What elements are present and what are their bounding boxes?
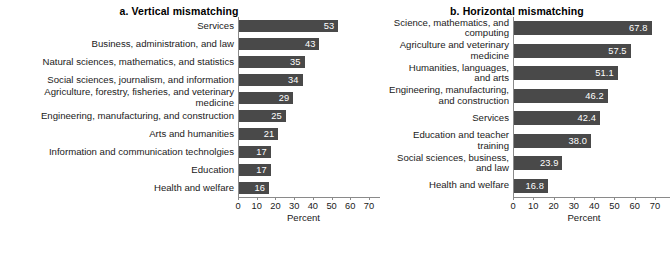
axis-tick-label: 10 — [528, 201, 538, 211]
x-axis-title: Percent — [567, 212, 600, 223]
bar-track: 34 — [238, 71, 380, 89]
bar-track: 17 — [238, 161, 380, 179]
bar-value-label: 29 — [279, 93, 294, 103]
axis-tick — [594, 197, 595, 200]
bar: 17 — [239, 146, 271, 158]
bar-track: 29 — [238, 89, 380, 107]
bar-row: Science, mathematics, and computing67.8 — [380, 17, 670, 40]
panel-b-bar-rows: Science, mathematics, and computing67.8A… — [380, 17, 670, 197]
category-label: Services — [380, 113, 513, 124]
bar-row: Services53 — [0, 17, 380, 35]
panel-a-title: a. Vertical mismatching — [0, 0, 380, 17]
bar: 38.0 — [514, 134, 591, 148]
bar-track: 23.9 — [513, 152, 670, 175]
bar-track: 17 — [238, 143, 380, 161]
bar-value-label: 57.5 — [608, 46, 631, 56]
bar-row: Business, administration, and law43 — [0, 35, 380, 53]
axis-tick-label: 70 — [364, 201, 374, 211]
axis-tick — [275, 197, 276, 200]
bar: 46.2 — [514, 89, 608, 103]
category-label: Health and welfare — [380, 180, 513, 191]
bar-row: Engineering, manufacturing, and construc… — [0, 107, 380, 125]
axis-tick — [574, 197, 575, 200]
bar: 67.8 — [514, 21, 652, 35]
bar-track: 38.0 — [513, 130, 670, 153]
bar-row: Information and communication technolgie… — [0, 143, 380, 161]
bar-value-label: 21 — [264, 129, 279, 139]
category-label: Arts and humanities — [0, 129, 238, 140]
bar: 57.5 — [514, 44, 631, 58]
category-label: Agriculture, forestry, fisheries, and ve… — [0, 87, 238, 108]
bar: 35 — [239, 56, 305, 68]
bar-track: 67.8 — [513, 17, 670, 40]
axis-tick — [513, 197, 514, 200]
axis-tick-label: 30 — [569, 201, 579, 211]
panel-vertical-mismatching: a. Vertical mismatching Services53Busine… — [0, 0, 380, 258]
category-label: Natural sciences, mathematics, and stati… — [0, 57, 238, 68]
axis-tick-label: 20 — [548, 201, 558, 211]
axis-tick — [332, 197, 333, 200]
bar-track: 53 — [238, 17, 380, 35]
bar-row: Education and teacher training38.0 — [380, 130, 670, 153]
category-label: Humanities, languages, and arts — [380, 63, 513, 84]
panel-b-title: b. Horizontal mismatching — [380, 0, 670, 17]
axis-tick — [294, 197, 295, 200]
bar-track: 42.4 — [513, 107, 670, 130]
bar-value-label: 46.2 — [585, 91, 608, 101]
bar-track: 16 — [238, 179, 380, 197]
axis-tick — [614, 197, 615, 200]
panel-a-plot-area: Services53Business, administration, and … — [0, 17, 380, 219]
bar-value-label: 35 — [290, 57, 305, 67]
category-label: Engineering, manufacturing, and construc… — [380, 85, 513, 106]
bar-track: 57.5 — [513, 40, 670, 63]
bar-value-label: 53 — [324, 21, 339, 31]
bar: 21 — [239, 128, 278, 140]
bar: 29 — [239, 92, 293, 104]
bar-value-label: 16 — [254, 183, 269, 193]
bar-row: Agriculture, forestry, fisheries, and ve… — [0, 89, 380, 107]
bar-track: 21 — [238, 125, 380, 143]
axis-tick-label: 50 — [609, 201, 619, 211]
category-label: Science, mathematics, and computing — [380, 18, 513, 39]
category-label: Social sciences, journalism, and informa… — [0, 75, 238, 86]
axis-tick — [313, 197, 314, 200]
bar: 25 — [239, 110, 286, 122]
axis-tick-label: 60 — [630, 201, 640, 211]
bar-value-label: 34 — [288, 75, 303, 85]
panel-a-bar-rows: Services53Business, administration, and … — [0, 17, 380, 197]
bar: 34 — [239, 74, 303, 86]
bar-row: Education17 — [0, 161, 380, 179]
axis-tick — [635, 197, 636, 200]
bar: 53 — [239, 20, 338, 32]
axis-tick-label: 50 — [326, 201, 336, 211]
axis-tick-label: 40 — [308, 201, 318, 211]
category-label: Information and communication technolgie… — [0, 147, 238, 158]
bar: 51.1 — [514, 66, 618, 80]
bar: 43 — [239, 38, 319, 50]
axis-tick-label: 70 — [650, 201, 660, 211]
bar-track: 35 — [238, 53, 380, 71]
bar-row: Agriculture and veterinary medicine57.5 — [380, 40, 670, 63]
category-label: Services — [0, 21, 238, 32]
bar-track: 46.2 — [513, 85, 670, 108]
bar-row: Social sciences, business, and law23.9 — [380, 152, 670, 175]
category-label: Health and welfare — [0, 183, 238, 194]
category-label: Education and teacher training — [380, 130, 513, 151]
bar-value-label: 43 — [305, 39, 320, 49]
bar-value-label: 67.8 — [629, 23, 652, 33]
bar: 42.4 — [514, 111, 600, 125]
axis-tick — [554, 197, 555, 200]
panel-a-x-axis: 010203040506070Percent — [238, 197, 380, 219]
bar-row: Health and welfare16.8 — [380, 175, 670, 198]
panel-horizontal-mismatching: b. Horizontal mismatching Science, mathe… — [380, 0, 670, 258]
bar: 17 — [239, 164, 271, 176]
bar: 23.9 — [514, 156, 562, 170]
bar-track: 51.1 — [513, 62, 670, 85]
bar-track: 25 — [238, 107, 380, 125]
bar-value-label: 23.9 — [540, 158, 563, 168]
bar-value-label: 42.4 — [578, 113, 601, 123]
figure-two-panel-bar-charts: a. Vertical mismatching Services53Busine… — [0, 0, 670, 258]
axis-tick — [238, 197, 239, 200]
bar: 16 — [239, 182, 269, 194]
axis-tick — [369, 197, 370, 200]
